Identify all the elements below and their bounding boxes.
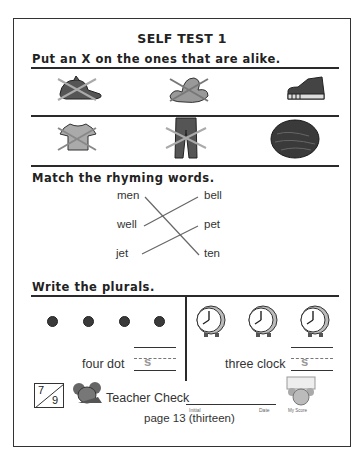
answer-input-clocks[interactable] [291, 370, 333, 371]
instruction-plurals: Write the plurals. [32, 280, 155, 294]
alarm-clock-icon [246, 305, 280, 339]
dot-icon [47, 316, 58, 327]
plural-label-dots: four dot [82, 357, 124, 371]
my-score-mascot: My Score [284, 375, 318, 415]
answer-hint-s: s [301, 354, 308, 369]
dot-icon [154, 316, 165, 327]
teacher-check-line[interactable] [186, 404, 276, 405]
vertical-divider [185, 296, 187, 381]
score-box: 7 9 [34, 383, 64, 408]
my-score-label: My Score [288, 408, 307, 413]
answer-hint-s: s [144, 354, 151, 369]
answer-line-top [134, 347, 176, 348]
page-number: page 13 (thirteen) [144, 412, 235, 424]
match-lines [14, 19, 352, 279]
answer-guide-dashed [291, 358, 333, 359]
date-label: Date [259, 407, 270, 413]
answer-guide-dashed [134, 358, 176, 359]
score-denominator: 9 [52, 394, 58, 406]
alarm-clock-icon [298, 305, 332, 339]
dot-icon [83, 316, 94, 327]
mouse-mascot-icon [72, 381, 106, 407]
score-numerator: 7 [38, 384, 44, 396]
answer-line-top [291, 347, 333, 348]
plural-label-clocks: three clock [225, 357, 285, 371]
alarm-clock-icon [194, 305, 228, 339]
dot-icon [119, 316, 130, 327]
teacher-check-label: Teacher Check [106, 391, 189, 405]
self-test-worksheet: SELF TEST 1 Put an X on the ones that ar… [13, 18, 351, 447]
answer-input-dots[interactable] [134, 370, 176, 371]
